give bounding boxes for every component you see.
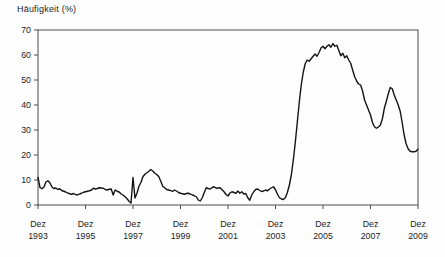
y-tick-label: 10	[21, 175, 31, 185]
x-tick-label-month: Dez	[315, 219, 331, 229]
x-tick-label-month: Dez	[78, 219, 94, 229]
y-tick-label: 20	[21, 150, 31, 160]
x-tick-label-month: Dez	[125, 219, 141, 229]
x-tick-label-month: Dez	[173, 219, 189, 229]
y-tick-label: 70	[21, 25, 31, 35]
y-tick-label: 0	[26, 200, 31, 210]
x-tick-label-month: Dez	[363, 219, 379, 229]
frequency-chart: Häufigkeit (%) 010203040506070Dez1993Dez…	[0, 0, 445, 257]
y-tick-label: 30	[21, 125, 31, 135]
x-tick-label-month: Dez	[410, 219, 426, 229]
x-tick-label-month: Dez	[268, 219, 284, 229]
x-tick-label-year: 2001	[218, 231, 238, 241]
y-tick-label: 60	[21, 50, 31, 60]
x-tick-label-year: 2009	[408, 231, 428, 241]
x-tick-label-year: 2007	[361, 231, 381, 241]
x-tick-label-year: 1995	[76, 231, 96, 241]
x-tick-label-year: 1993	[28, 231, 48, 241]
chart-canvas: 010203040506070Dez1993Dez1995Dez1997Dez1…	[0, 0, 445, 257]
x-tick-label-year: 2005	[313, 231, 333, 241]
x-tick-label-year: 1997	[123, 231, 143, 241]
y-tick-label: 40	[21, 100, 31, 110]
frequency-line-series	[38, 44, 418, 204]
x-tick-label-year: 2003	[266, 231, 286, 241]
x-tick-label-month: Dez	[30, 219, 46, 229]
y-tick-label: 50	[21, 75, 31, 85]
plot-border	[38, 30, 418, 205]
x-tick-label-year: 1999	[171, 231, 191, 241]
x-tick-label-month: Dez	[220, 219, 236, 229]
